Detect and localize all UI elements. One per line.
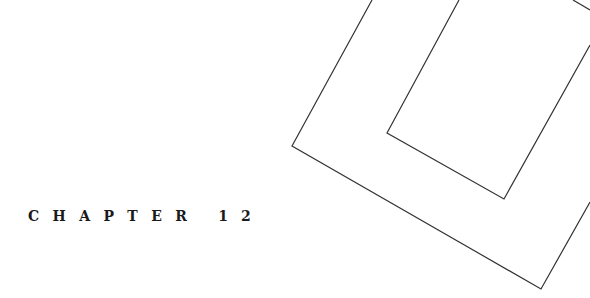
inner-frame: [387, 0, 590, 199]
outer-frame: [292, 0, 590, 289]
chapter-number: 12: [218, 208, 263, 224]
corner-fragment: [573, 0, 590, 10]
decorative-frames: [0, 0, 590, 298]
chapter-label: CHAPTER: [28, 208, 200, 224]
chapter-heading: CHAPTER 12: [28, 208, 264, 224]
